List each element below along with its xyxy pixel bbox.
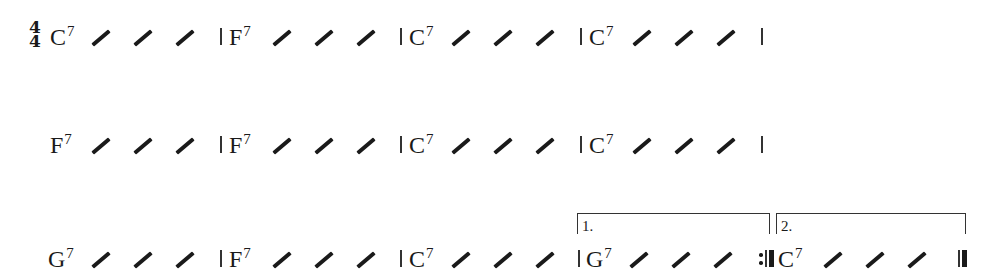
second-ending-label: 2. bbox=[781, 219, 792, 234]
chord-r2-m4: C7 bbox=[589, 133, 614, 160]
chord-r3-m5: C7 bbox=[778, 247, 803, 274]
barline bbox=[761, 28, 763, 45]
barline bbox=[580, 28, 582, 45]
slash-beat bbox=[629, 251, 648, 268]
barline bbox=[400, 136, 402, 153]
thick-barline bbox=[769, 250, 774, 267]
slash-beat bbox=[451, 251, 470, 268]
chord-r1-m2: F7 bbox=[229, 25, 251, 52]
slash-beat bbox=[133, 29, 152, 46]
thin-barline bbox=[765, 250, 767, 267]
slash-beat bbox=[671, 251, 690, 268]
barline bbox=[220, 28, 222, 45]
first-ending-bracket bbox=[577, 213, 770, 234]
chord-r2-m1: F7 bbox=[50, 133, 72, 160]
slash-beat bbox=[493, 251, 512, 268]
slash-beat bbox=[716, 137, 735, 154]
slash-beat bbox=[356, 29, 375, 46]
slash-beat bbox=[91, 137, 110, 154]
first-ending-label: 1. bbox=[582, 219, 593, 234]
time-signature-bottom: 4 bbox=[28, 34, 42, 48]
slash-beat bbox=[632, 29, 651, 46]
slash-beat bbox=[907, 251, 926, 268]
slash-beat bbox=[865, 251, 884, 268]
slash-beat bbox=[272, 251, 291, 268]
chord-r3-m4: G7 bbox=[586, 247, 612, 274]
repeat-dot bbox=[759, 253, 763, 257]
barline bbox=[220, 136, 222, 153]
slash-beat bbox=[272, 29, 291, 46]
slash-beat bbox=[314, 29, 333, 46]
chord-r3-m3: C7 bbox=[409, 247, 434, 274]
barline bbox=[761, 136, 763, 153]
slash-beat bbox=[674, 137, 693, 154]
slash-beat bbox=[716, 29, 735, 46]
slash-beat bbox=[175, 251, 194, 268]
slash-beat bbox=[133, 251, 152, 268]
slash-beat bbox=[451, 29, 470, 46]
slash-beat bbox=[535, 251, 554, 268]
slash-beat bbox=[823, 251, 842, 268]
barline bbox=[578, 250, 580, 267]
time-signature: 4 4 bbox=[28, 20, 42, 48]
barline bbox=[220, 250, 222, 267]
slash-beat bbox=[674, 29, 693, 46]
slash-beat bbox=[356, 137, 375, 154]
chord-r3-m2: F7 bbox=[229, 247, 251, 274]
chord-r1-m4: C7 bbox=[589, 25, 614, 52]
slash-beat bbox=[272, 137, 291, 154]
thin-barline bbox=[958, 250, 960, 267]
second-ending-bracket bbox=[776, 213, 966, 234]
slash-beat bbox=[493, 137, 512, 154]
slash-beat bbox=[356, 251, 375, 268]
barline bbox=[400, 250, 402, 267]
slash-beat bbox=[493, 29, 512, 46]
slash-beat bbox=[713, 251, 732, 268]
repeat-dot bbox=[759, 261, 763, 265]
slash-beat bbox=[535, 137, 554, 154]
barline bbox=[400, 28, 402, 45]
slash-beat bbox=[175, 137, 194, 154]
slash-beat bbox=[314, 137, 333, 154]
slash-beat bbox=[314, 251, 333, 268]
slash-beat bbox=[632, 137, 651, 154]
slash-beat bbox=[535, 29, 554, 46]
slash-beat bbox=[133, 137, 152, 154]
chord-r3-m1: G7 bbox=[48, 247, 74, 274]
chord-r2-m3: C7 bbox=[409, 133, 434, 160]
slash-beat bbox=[91, 251, 110, 268]
barline bbox=[580, 136, 582, 153]
thick-barline bbox=[962, 250, 967, 267]
slash-beat bbox=[175, 29, 194, 46]
chord-r1-m3: C7 bbox=[409, 25, 434, 52]
slash-beat bbox=[91, 29, 110, 46]
slash-beat bbox=[451, 137, 470, 154]
chord-r2-m2: F7 bbox=[229, 133, 251, 160]
chord-r1-m1: C7 bbox=[50, 25, 75, 52]
